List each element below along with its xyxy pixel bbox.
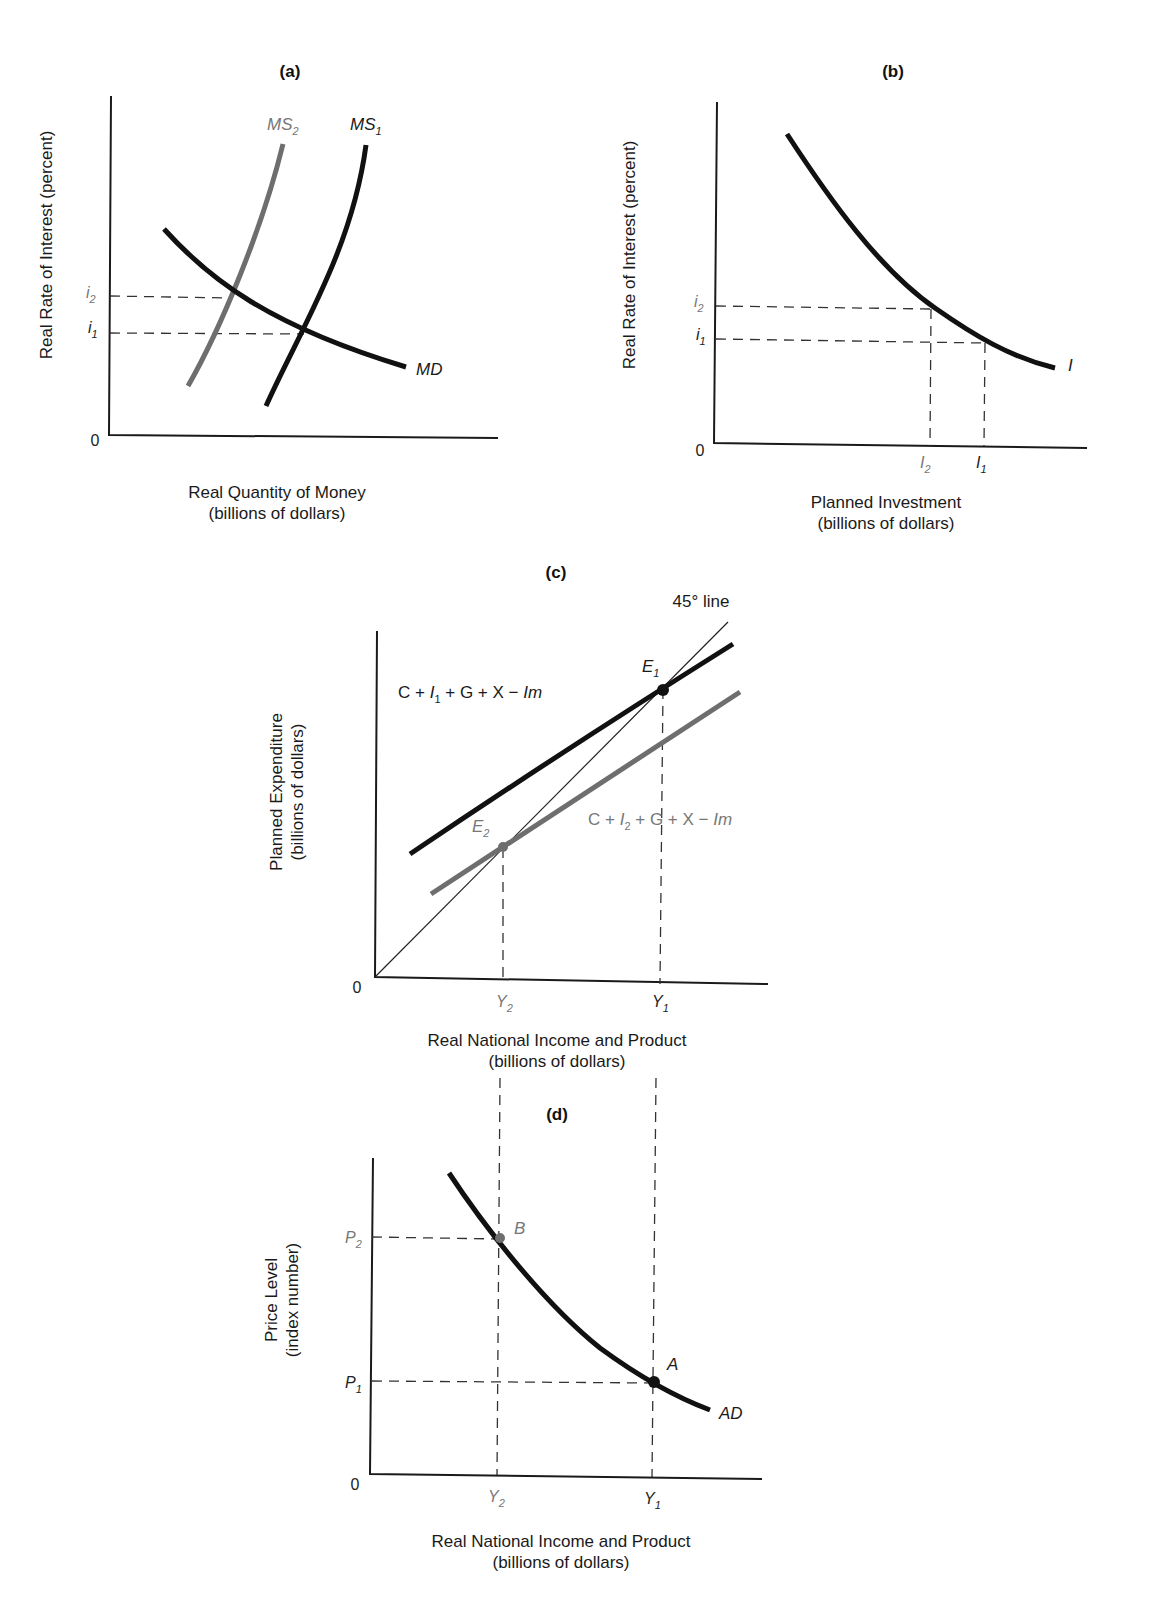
panel-d-P2-guide <box>372 1237 500 1239</box>
panel-a-md-label: MD <box>416 360 442 379</box>
panel-d-y-axis-unit: (index number) <box>283 1243 302 1357</box>
panel-d-point-a-label: A <box>666 1355 678 1374</box>
panel-d-point-b <box>495 1233 505 1243</box>
panel-c-ae1-label: C + I1 + G + X − Im <box>398 683 542 705</box>
panel-c-e1-point <box>657 684 669 696</box>
panel-a-title: (a) <box>280 62 301 81</box>
panel-c-ae2-line <box>431 692 740 894</box>
panel-a-x-axis-unit: (billions of dollars) <box>209 504 346 523</box>
panel-c-tick-Y1: Y1 <box>652 993 669 1014</box>
panel-c-x-axis-title: Real National Income and Product <box>428 1031 687 1050</box>
panel-d-tick-Y2: Y2 <box>488 1488 505 1509</box>
panel-b-i1-guide <box>716 339 985 343</box>
panel-b-I2-guide <box>930 309 931 446</box>
panel-a: (a) Real Rate of Interest (percent) 0 i2… <box>37 62 498 523</box>
panel-b-tick-I1: I1 <box>976 454 987 475</box>
panel-d-tick-P2: P2 <box>345 1229 362 1250</box>
panel-d-y-axis-title: Price Level <box>262 1258 281 1342</box>
panel-d-origin: 0 <box>351 1476 360 1493</box>
panel-a-tick-i1: i1 <box>88 319 98 340</box>
panel-c-Y1-guide <box>660 689 663 984</box>
panel-c-tick-Y2: Y2 <box>496 993 513 1014</box>
panel-a-x-axis-title: Real Quantity of Money <box>188 483 366 502</box>
panel-b-tick-I2: I2 <box>920 454 931 475</box>
panel-d-title: (d) <box>546 1105 568 1124</box>
panel-c-ae2-label: C + I2 + G + X − Im <box>588 810 732 832</box>
panel-c: (c) 45° line Planned Expenditure (billio… <box>267 563 768 1071</box>
panel-b-tick-i2: i2 <box>694 293 704 314</box>
panel-b-x-axis-title: Planned Investment <box>811 493 962 512</box>
panel-b: (b) Real Rate of Interest (percent) 0 i2… <box>620 62 1087 533</box>
panel-d-x-axis-unit: (billions of dollars) <box>493 1553 630 1572</box>
panel-c-e1-label: E1 <box>642 657 659 679</box>
panel-a-ms1-curve <box>266 145 366 406</box>
panel-c-origin: 0 <box>353 979 362 996</box>
panel-a-y-axis-title: Real Rate of Interest (percent) <box>37 131 56 360</box>
panel-b-axes <box>714 102 1087 448</box>
panel-d-Y2-guide <box>497 1078 500 1475</box>
panel-d-tick-Y1: Y1 <box>644 1490 661 1511</box>
panel-d-point-a <box>648 1376 660 1388</box>
panel-c-e2-point <box>498 842 508 852</box>
panel-c-e2-label: E2 <box>472 817 489 839</box>
panel-d-ad-label: AD <box>718 1404 743 1423</box>
panel-d-P1-guide <box>372 1381 654 1383</box>
panel-a-origin: 0 <box>91 432 100 449</box>
panel-b-I1-guide <box>984 343 985 446</box>
panel-c-y-axis-title: Planned Expenditure <box>267 713 286 871</box>
panel-d-point-b-label: B <box>514 1219 525 1238</box>
panel-b-origin: 0 <box>696 442 705 459</box>
panel-b-investment-curve <box>787 134 1055 368</box>
panel-a-i1-guide <box>110 333 304 334</box>
panel-b-investment-label: I <box>1068 356 1073 375</box>
panel-c-45-degree-line <box>375 622 728 977</box>
panel-b-title: (b) <box>882 62 904 81</box>
panel-d: (d) Price Level (index number) 0 P2 P1 B… <box>262 1078 762 1572</box>
panel-d-tick-P1: P1 <box>345 1374 362 1395</box>
panel-a-i2-guide <box>110 296 232 298</box>
panel-b-y-axis-title: Real Rate of Interest (percent) <box>620 141 639 370</box>
panel-a-ms1-label: MS1 <box>350 115 382 137</box>
panel-c-y-axis-unit: (billions of dollars) <box>288 724 307 861</box>
panel-a-ms2-label: MS2 <box>267 115 299 137</box>
panel-a-axes <box>109 96 498 438</box>
panel-a-tick-i2: i2 <box>86 284 96 305</box>
panel-d-Y1-guide <box>652 1078 656 1478</box>
panel-c-title: (c) <box>546 563 567 582</box>
panel-c-x-axis-unit: (billions of dollars) <box>489 1052 626 1071</box>
figure-canvas: (a) Real Rate of Interest (percent) 0 i2… <box>0 0 1156 1613</box>
panel-d-ad-curve <box>449 1173 710 1410</box>
panel-b-i2-guide <box>716 306 931 309</box>
panel-b-x-axis-unit: (billions of dollars) <box>818 514 955 533</box>
panel-b-tick-i1: i1 <box>696 326 706 347</box>
panel-d-x-axis-title: Real National Income and Product <box>432 1532 691 1551</box>
panel-c-45-label: 45° line <box>673 592 730 611</box>
